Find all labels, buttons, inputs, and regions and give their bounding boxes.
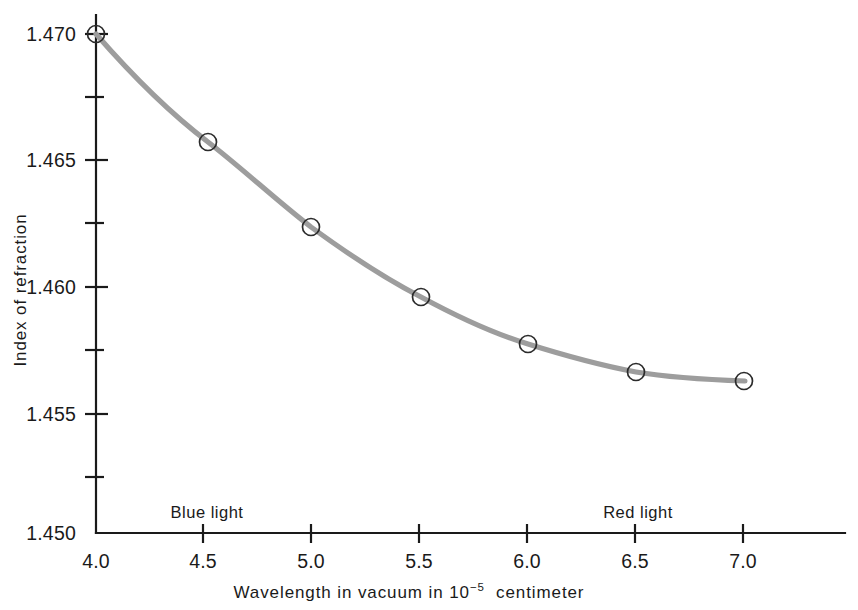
- x-axis-title: Wavelength in vacuum in 10−5 centimeter: [234, 581, 585, 602]
- y-axis-title: Index of refraction: [11, 213, 30, 366]
- annotation-blue-light: Blue light: [171, 503, 244, 521]
- x-tick-label-55: 5.5: [405, 550, 433, 572]
- x-tick-label-40: 4.0: [82, 550, 110, 572]
- annotation-red-light: Red light: [603, 503, 673, 521]
- index-of-refraction-chart: 1.470 1.465 1.460 1.455 1.450 4.0 4.5 5.…: [0, 0, 858, 610]
- chart-figure: 1.470 1.465 1.460 1.455 1.450 4.0 4.5 5.…: [0, 0, 858, 610]
- x-tick-label-70: 7.0: [729, 550, 757, 572]
- data-point-markers: [88, 26, 753, 390]
- x-axis-title-main: Wavelength in vacuum in 10: [234, 583, 470, 602]
- y-tick-label-1455: 1.455: [26, 403, 76, 425]
- y-tick-label-1460: 1.460: [26, 276, 76, 298]
- y-tick-label-1465: 1.465: [26, 149, 76, 171]
- x-tick-label-50: 5.0: [297, 550, 325, 572]
- x-tick-label-60: 6.0: [513, 550, 541, 572]
- x-tick-label-45: 4.5: [189, 550, 217, 572]
- y-tick-label-1470: 1.470: [26, 23, 76, 45]
- x-tick-label-65: 6.5: [621, 550, 649, 572]
- y-tick-label-1450: 1.450: [26, 522, 76, 544]
- x-axis-title-tail: centimeter: [485, 583, 585, 602]
- x-axis-title-exponent: −5: [470, 581, 485, 593]
- refraction-curve: [96, 34, 745, 381]
